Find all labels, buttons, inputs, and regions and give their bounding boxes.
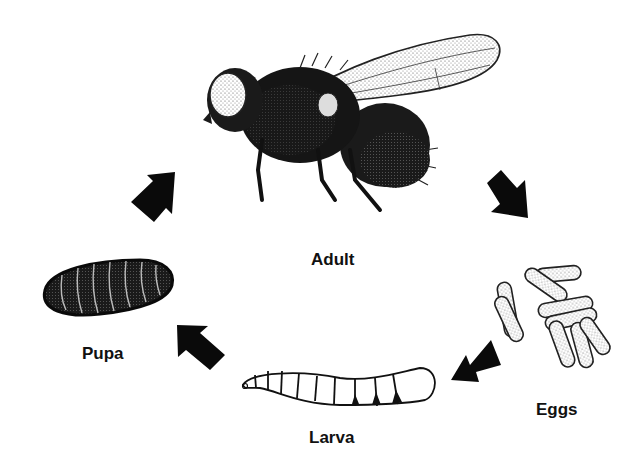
stage-label-eggs: Eggs: [536, 400, 578, 420]
adult-fly-icon: [203, 35, 500, 210]
stage-label-larva: Larva: [309, 428, 354, 448]
arrow-eggs-to-larva-icon: [451, 340, 501, 382]
stage-label-pupa: Pupa: [82, 344, 124, 364]
arrow-pupa-to-adult-icon: [131, 172, 175, 222]
arrow-adult-to-eggs-icon: [487, 170, 528, 218]
eggs-icon: [493, 265, 613, 369]
diagram-illustrations: [0, 0, 636, 465]
pupa-icon: [44, 260, 172, 315]
fly-life-cycle-diagram: Adult Eggs Larva Pupa: [0, 0, 636, 465]
larva-icon: [243, 368, 435, 406]
stage-label-adult: Adult: [311, 250, 354, 270]
arrow-larva-to-pupa-icon: [177, 325, 225, 370]
